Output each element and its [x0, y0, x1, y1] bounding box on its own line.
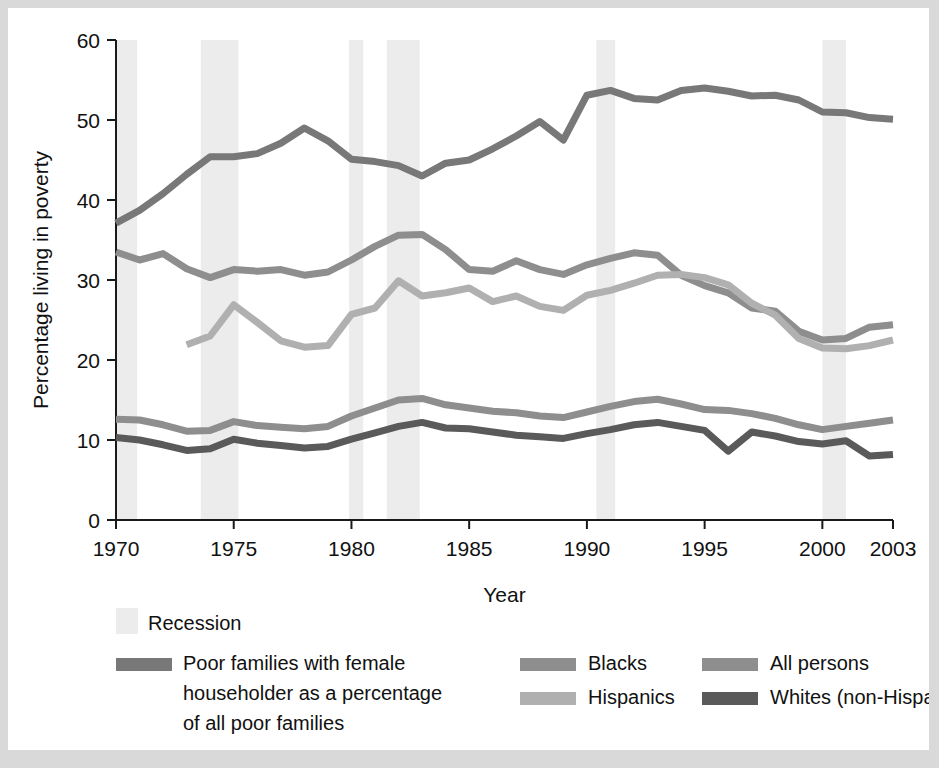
y-tick-label: 40 — [77, 189, 100, 212]
x-tick-label: 2000 — [799, 537, 846, 560]
y-tick-label: 20 — [77, 349, 100, 372]
legend-swatch-whites — [702, 692, 758, 705]
figure-frame: 0102030405060197019751980198519901995200… — [8, 8, 929, 750]
chart-legend: Recession Poor families with female hous… — [8, 600, 929, 750]
legend-label-recession: Recession — [148, 612, 241, 634]
x-tick-label: 1970 — [93, 537, 140, 560]
x-tick-label: 2003 — [870, 537, 917, 560]
x-tick-label: 1990 — [564, 537, 611, 560]
series-line — [187, 274, 893, 348]
legend-label-poor-families-line2: householder as a percentage — [183, 682, 442, 704]
legend-label-blacks: Blacks — [588, 652, 647, 674]
x-tick-label: 1995 — [681, 537, 728, 560]
x-tick-label: 1985 — [446, 537, 493, 560]
legend-swatch-blacks — [520, 658, 576, 671]
y-axis-title: Percentage living in poverty — [29, 151, 52, 409]
recession-band — [349, 40, 363, 520]
legend-swatch-all-persons — [702, 658, 758, 671]
legend-label-poor-families-line3: of all poor families — [183, 712, 344, 734]
y-tick-label: 60 — [77, 29, 100, 52]
legend-label-poor-families-line1: Poor families with female — [183, 652, 405, 674]
y-tick-label: 0 — [88, 509, 100, 532]
x-tick-label: 1975 — [210, 537, 257, 560]
legend-swatch-recession — [116, 608, 138, 634]
y-tick-label: 10 — [77, 429, 100, 452]
recession-band — [116, 40, 137, 520]
y-tick-label: 30 — [77, 269, 100, 292]
legend-swatch-hispanics — [520, 692, 576, 705]
legend-label-hispanics: Hispanics — [588, 686, 675, 708]
x-tick-label: 1980 — [328, 537, 375, 560]
y-tick-label: 50 — [77, 109, 100, 132]
recession-band — [596, 40, 615, 520]
legend-label-all-persons: All persons — [770, 652, 869, 674]
legend-swatch-poor-families — [116, 658, 172, 671]
legend-label-whites: Whites (non-Hispanic) — [770, 686, 929, 708]
